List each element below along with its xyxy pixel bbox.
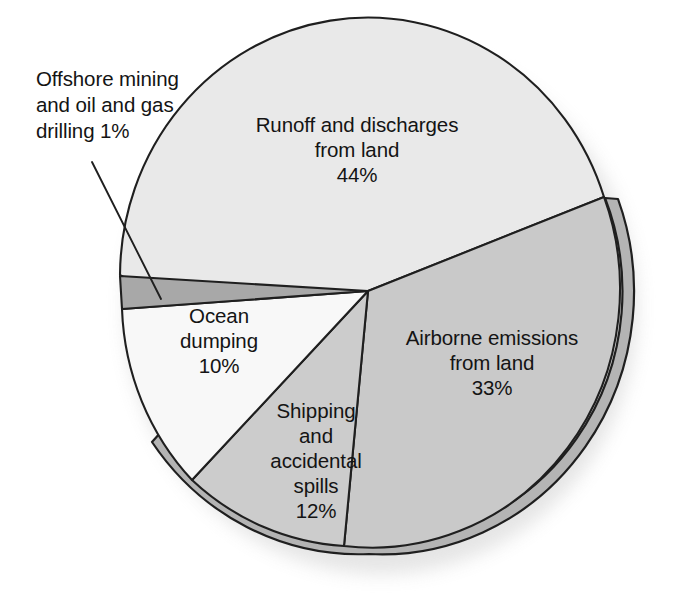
pie-label-offshore: Offshore mining and oil and gas drilling… — [36, 66, 226, 143]
pie-chart: Runoff and discharges from land 44% Airb… — [0, 0, 689, 595]
